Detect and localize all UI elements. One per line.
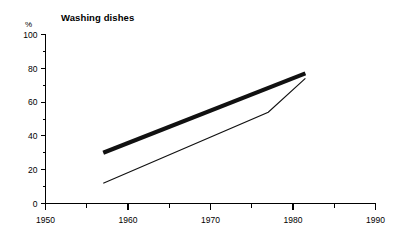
series-thick-line — [103, 73, 305, 152]
y-axis-ticks — [41, 35, 46, 204]
chart-container: Washing dishes % 020406080100 1950196019… — [0, 0, 399, 242]
x-tick-label: 1950 — [36, 215, 55, 225]
line-chart: Washing dishes % 020406080100 1950196019… — [0, 0, 399, 242]
series-layer — [103, 73, 305, 183]
series-thin-line — [103, 78, 305, 183]
x-tick-label: 1980 — [284, 215, 303, 225]
x-axis-ticks — [46, 204, 376, 210]
x-tick-label: 1960 — [119, 215, 138, 225]
x-axis-tick-labels: 19501960197019801990 — [36, 215, 385, 225]
y-tick-label: 60 — [28, 97, 38, 107]
y-axis-tick-labels: 020406080100 — [23, 30, 37, 209]
y-tick-label: 80 — [28, 64, 38, 74]
y-tick-label: 20 — [28, 165, 38, 175]
y-tick-label: 0 — [33, 199, 38, 209]
y-axis-unit-label: % — [25, 20, 32, 29]
x-tick-label: 1970 — [201, 215, 220, 225]
chart-title: Washing dishes — [61, 12, 134, 23]
y-tick-label: 100 — [23, 30, 37, 40]
y-tick-label: 40 — [28, 131, 38, 141]
x-tick-label: 1990 — [366, 215, 385, 225]
